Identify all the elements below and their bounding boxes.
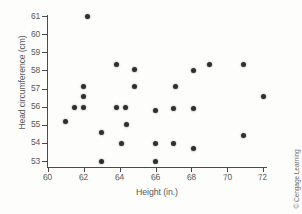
data-point bbox=[153, 141, 158, 146]
scatter-plot-figure: 535455565758596061 60626466687072 Head c… bbox=[0, 0, 302, 214]
data-point bbox=[81, 84, 86, 89]
data-point bbox=[132, 84, 137, 89]
data-point bbox=[171, 106, 176, 111]
data-point bbox=[81, 105, 86, 110]
data-point bbox=[153, 108, 158, 113]
data-point bbox=[123, 105, 128, 110]
data-point bbox=[81, 94, 86, 99]
data-point bbox=[207, 62, 212, 67]
data-point bbox=[173, 84, 178, 89]
data-point bbox=[171, 141, 176, 146]
data-point bbox=[85, 14, 90, 19]
plot-area bbox=[0, 0, 302, 214]
x-axis-title: Height (in.) bbox=[47, 188, 267, 197]
data-point bbox=[99, 159, 104, 164]
data-point bbox=[114, 105, 119, 110]
data-point bbox=[261, 94, 266, 99]
data-point bbox=[191, 106, 196, 111]
data-point bbox=[63, 119, 68, 124]
data-point bbox=[72, 105, 77, 110]
y-axis-title: Head circumference (cm) bbox=[18, 23, 27, 143]
data-point bbox=[119, 141, 124, 146]
data-point bbox=[241, 62, 246, 67]
data-point bbox=[191, 68, 196, 73]
data-point bbox=[99, 130, 104, 135]
data-point bbox=[191, 146, 196, 151]
data-point bbox=[241, 133, 246, 138]
data-point bbox=[132, 67, 137, 72]
data-point bbox=[124, 122, 129, 127]
copyright-credit: © Cengage Learning bbox=[293, 99, 300, 209]
data-point bbox=[153, 159, 158, 164]
data-point bbox=[114, 62, 119, 67]
